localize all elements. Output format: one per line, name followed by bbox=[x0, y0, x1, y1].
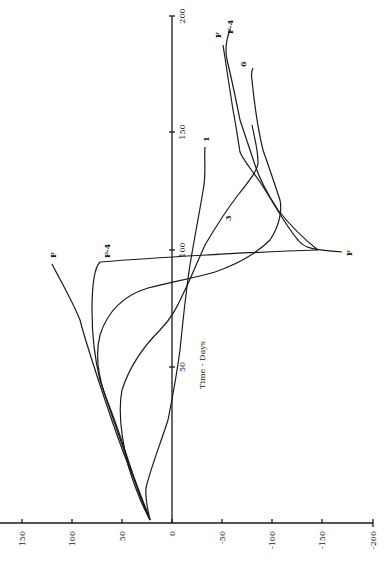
curve-F-recovery bbox=[223, 45, 342, 252]
x-tick-label: 50 bbox=[178, 362, 187, 372]
label-F-left: F bbox=[48, 252, 58, 258]
y-tick-label: 100 bbox=[68, 531, 77, 546]
label-F-bottom: F bbox=[344, 250, 354, 256]
curve-6 bbox=[98, 68, 281, 520]
label-F4-right: F-4 bbox=[225, 19, 235, 34]
label-6: 6 bbox=[238, 61, 248, 67]
curve-3 bbox=[120, 125, 258, 520]
label-3: 3 bbox=[223, 215, 233, 221]
curve-labels: F F-4 F F F-4 6 1 3 bbox=[48, 19, 354, 258]
value-axis-tick-labels: 150 100 50 0 -50 -100 -150 -200 bbox=[18, 531, 378, 549]
time-axis-tick-labels: 50 100 150 200 bbox=[178, 8, 187, 372]
y-tick-label: 50 bbox=[118, 531, 127, 541]
y-tick-label: -50 bbox=[218, 531, 227, 544]
y-tick-label: 0 bbox=[168, 531, 177, 536]
x-tick-label: 150 bbox=[178, 124, 187, 139]
curve-1 bbox=[146, 147, 205, 520]
x-tick-label: 200 bbox=[178, 8, 187, 23]
label-1: 1 bbox=[201, 136, 211, 142]
label-F-right: F bbox=[213, 32, 223, 38]
y-tick-label: -150 bbox=[318, 531, 327, 549]
y-tick-label: 150 bbox=[18, 531, 27, 546]
curves bbox=[52, 30, 342, 520]
y-tick-label: -100 bbox=[268, 531, 277, 549]
label-F4-left: F-4 bbox=[102, 243, 112, 258]
x-axis-title: Time - Days bbox=[198, 341, 207, 389]
y-tick-label: -200 bbox=[369, 531, 378, 549]
x-tick-label: 100 bbox=[178, 242, 187, 257]
rotated-line-chart: 150 100 50 0 -50 -100 -150 -200 50 100 1… bbox=[0, 0, 386, 565]
